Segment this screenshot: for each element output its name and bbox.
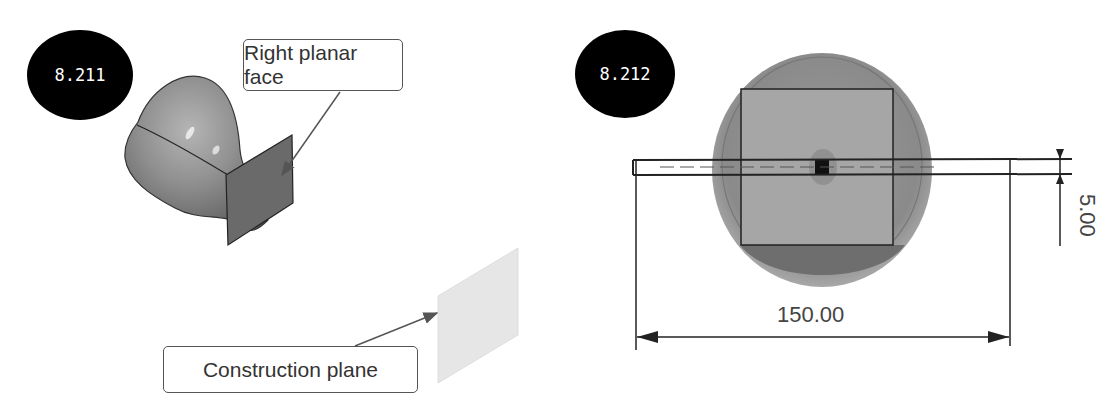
dimension-thickness-label: 5.00 (1074, 194, 1100, 254)
dimension-width-label: 150.00 (777, 302, 844, 328)
dimension-thickness (1056, 149, 1064, 246)
figure-8-212-drawing (0, 0, 1118, 416)
